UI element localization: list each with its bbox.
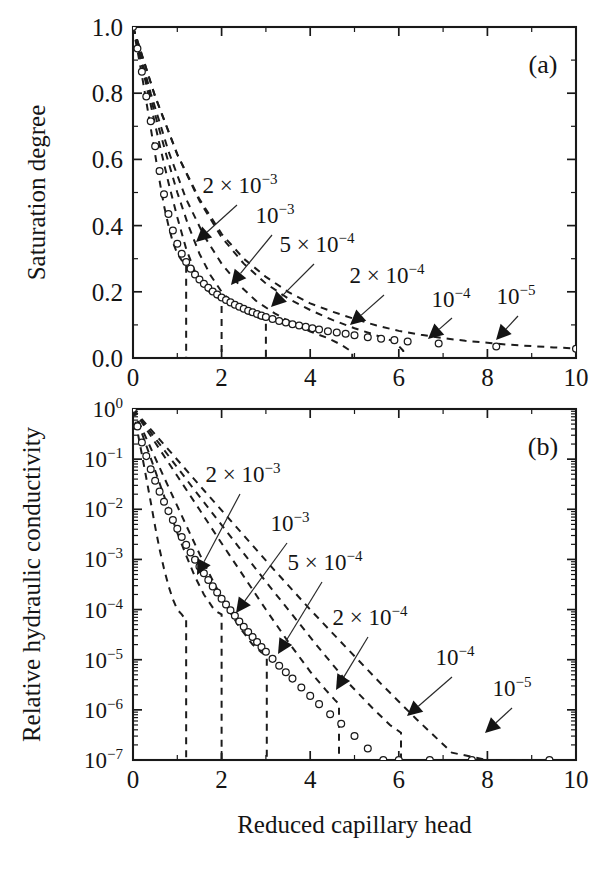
data-point [282, 669, 289, 676]
data-point [338, 720, 345, 727]
chart-panel-b: 024681010010−110−210−310−410−510−610−72 … [18, 395, 589, 838]
annotation-leader [418, 677, 452, 706]
annotation-leader [241, 235, 272, 273]
curve-label-1e-3: 10−3 [271, 509, 310, 536]
annotation-arrowhead [231, 269, 246, 285]
data-point [298, 684, 305, 691]
data-point [263, 648, 270, 655]
data-point [435, 340, 442, 347]
data-point [165, 508, 172, 515]
data-point [426, 757, 433, 764]
data-point [130, 24, 137, 31]
annotation-leader [506, 316, 518, 329]
data-point [378, 335, 385, 342]
x-tick-label: 0 [127, 766, 140, 793]
data-point [218, 595, 225, 602]
y-tick-exponent: −6 [107, 696, 123, 712]
curve-label-exponent: −4 [455, 285, 471, 301]
curve-label-1e-5: 10−5 [497, 282, 536, 309]
data-point [404, 338, 411, 345]
data-point [152, 477, 159, 484]
data-point [546, 757, 553, 764]
y-tick-label: 10−6 [84, 696, 123, 723]
curve-label-5e-4: 5 × 10−4 [288, 548, 363, 575]
data-point [130, 406, 137, 413]
x-tick-label: 2 [215, 766, 228, 793]
x-tick-label: 6 [393, 364, 406, 391]
curve-label-5e-4: 5 × 10−4 [280, 230, 355, 257]
curve-label-1e-4: 10−4 [432, 285, 471, 312]
curve-label-exponent: −4 [392, 603, 408, 619]
x-tick-label: 10 [564, 766, 589, 793]
data-point [214, 589, 221, 596]
y-tick-exponent: −4 [107, 596, 123, 612]
data-point [351, 332, 358, 339]
curve-label-1e-4: 10−4 [436, 643, 475, 670]
annotation-leader [439, 318, 452, 329]
y-tick-label: 100 [93, 395, 124, 422]
data-point [183, 541, 190, 548]
data-point [493, 343, 500, 350]
y-tick-label: 10−3 [84, 545, 123, 572]
data-point [573, 345, 580, 352]
plot-area-panel-b [130, 406, 553, 764]
data-point [468, 757, 475, 764]
data-point [282, 319, 289, 326]
curve-label-exponent: −3 [262, 171, 278, 187]
panel-label-panel-a: (a) [529, 50, 558, 79]
data-point [161, 498, 168, 505]
data-point [327, 711, 334, 718]
annotation-leader [207, 205, 237, 232]
curve-label-2e-3: 2 × 10−3 [203, 171, 278, 198]
data-point [147, 466, 154, 473]
data-point [380, 757, 387, 764]
y-tick-exponent: −5 [107, 646, 123, 662]
data-point [134, 423, 141, 430]
data-point [147, 118, 154, 125]
data-point [296, 322, 303, 329]
curve-label-exponent: −3 [294, 509, 310, 525]
plot-area-panel-a [130, 24, 580, 362]
y-tick-label: 0.6 [92, 146, 123, 173]
curve-label-2e-4: 2 × 10−4 [333, 603, 408, 630]
annotation-leader [344, 637, 368, 677]
data-point [138, 439, 145, 446]
data-point [325, 328, 332, 335]
curve-1e-5 [133, 409, 552, 764]
curve-label-exponent: −4 [339, 230, 355, 246]
data-point [309, 325, 316, 332]
x-tick-label: 8 [481, 364, 494, 391]
y-tick-label: 10−2 [84, 495, 123, 522]
data-point [209, 583, 216, 590]
data-point [205, 577, 212, 584]
chart-panel-a: 02468100.00.20.40.60.81.02 × 10−310−35 ×… [23, 14, 589, 391]
y-tick-label: 10−5 [84, 646, 123, 673]
x-tick-label: 4 [304, 364, 317, 391]
x-tick-label: 2 [215, 364, 228, 391]
y-tick-label: 1.0 [92, 14, 123, 41]
annotation-leader [496, 708, 512, 723]
curve-label-exponent: −4 [409, 261, 425, 277]
panel-label-panel-b: (b) [528, 432, 558, 461]
data-point [174, 525, 181, 532]
data-point [187, 265, 194, 272]
data-point [156, 168, 163, 175]
data-point [183, 259, 190, 266]
data-point [143, 453, 150, 460]
data-point [289, 321, 296, 328]
figure-container: 02468100.00.20.40.60.81.02 × 10−310−35 ×… [0, 0, 614, 874]
y-tick-label: 0.2 [92, 279, 123, 306]
x-tick-label: 10 [564, 364, 589, 391]
annotation-arrowhead [196, 226, 212, 242]
y-tick-exponent: 0 [116, 395, 124, 411]
curve-label-exponent: −5 [520, 282, 536, 298]
data-point [316, 701, 323, 708]
curve-label-1e-5: 10−5 [493, 674, 532, 701]
y-tick-label: 0.8 [92, 80, 123, 107]
y-tick-label: 10−4 [84, 596, 123, 623]
x-axis-title-panel-b: Reduced capillary head [237, 811, 472, 838]
curve-label-2e-4: 2 × 10−4 [350, 261, 425, 288]
data-point [316, 326, 323, 333]
y-tick-exponent: −7 [107, 746, 123, 762]
data-point [187, 549, 194, 556]
